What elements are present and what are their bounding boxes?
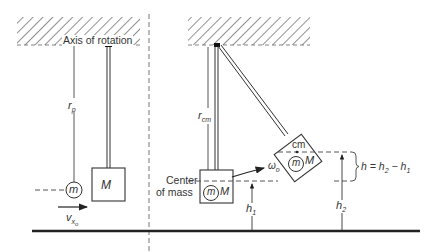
radius-rp-label: rp [68, 100, 76, 113]
bullet-mass-label-left: m [69, 184, 78, 195]
pendulum-rod-swung [218, 46, 285, 136]
block-mass-label-left: M [101, 179, 111, 191]
right-panel [188, 17, 359, 230]
velocity-label: vxo [66, 212, 78, 228]
center-of-mass-label: Center of mass [156, 175, 198, 198]
block-mass-label-initial: M [220, 186, 229, 197]
bullet-mass-label-initial: m [207, 187, 215, 197]
cm-label: cm [292, 140, 305, 150]
omega-arrow [232, 168, 264, 177]
radius-rcm-label: rcm [198, 110, 211, 123]
bullet-mass-label-swung: m [292, 158, 300, 168]
height-brace [352, 152, 359, 181]
h1-label: h1 [246, 203, 256, 216]
ceiling-right [188, 17, 310, 45]
h2-label: h2 [336, 200, 346, 213]
block-mass-label-swung: M [305, 155, 314, 166]
height-difference-label: h = h2 − h1 [361, 161, 410, 174]
axis-of-rotation-label: Axis of rotation [62, 35, 133, 46]
omega-label: ωo [268, 161, 280, 173]
